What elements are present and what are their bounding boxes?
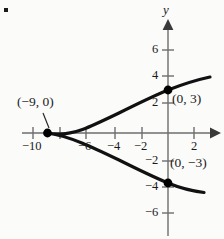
y-axis-group (162, 19, 174, 236)
y-tick-label--4: −4 (145, 180, 158, 193)
y-axis-label: y (163, 3, 169, 16)
point-dot-0-neg3 (164, 179, 173, 188)
x-tick-label--10: −10 (22, 140, 42, 153)
x-tick-label--6: −6 (78, 140, 91, 153)
point-label-0-3: (0, 3) (172, 92, 201, 105)
y-axis-arrow-icon (163, 19, 174, 30)
y-tick-label--2: −2 (145, 154, 158, 167)
y-tick-label-6: 6 (152, 43, 158, 56)
x-tick-label--2: −2 (134, 140, 147, 153)
x-axis-arrow-icon (210, 128, 221, 139)
y-tick-label-2: 2 (152, 96, 158, 109)
y-tick-label-4: 4 (152, 69, 158, 82)
point-label-vertex: (−9, 0) (17, 95, 54, 108)
point-dot-vertex (43, 129, 52, 138)
coordinate-plane-svg (0, 0, 224, 239)
x-tick-label--4: −4 (107, 140, 120, 153)
parabola-graph-figure: y −10 −6 −4 −2 2 6 4 2 −2 −4 −6 (−9, 0) … (0, 0, 224, 239)
vertex-leader-line (43, 113, 49, 128)
x-tick-label-2: 2 (191, 140, 197, 153)
y-tick-label--6: −6 (145, 206, 158, 219)
point-label-0-neg3: (0, −3) (170, 156, 207, 169)
